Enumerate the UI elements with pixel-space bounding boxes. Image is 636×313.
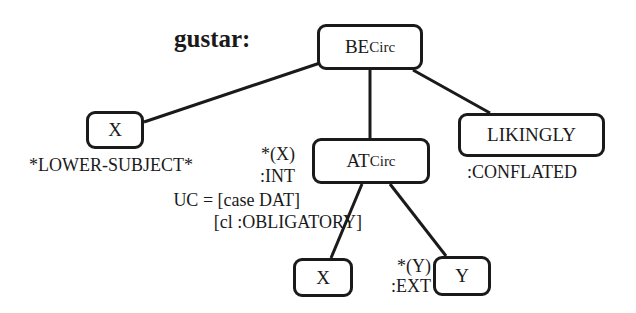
node-x-bottom: X [293, 258, 353, 297]
at-int-annotation: :INT [260, 166, 295, 187]
node-y-label: Y [455, 265, 469, 287]
node-x-top: X [86, 111, 144, 149]
uc-clitic-annotation: [cl :OBLIGATORY] [214, 212, 362, 233]
diagram-title: gustar: [174, 25, 250, 53]
edge-be-x [144, 63, 320, 122]
node-x-bottom-label: X [316, 267, 330, 289]
node-x-top-label: X [108, 119, 122, 141]
edge-be-likingly [413, 70, 490, 113]
node-y: Y [433, 256, 491, 296]
node-be-subscript: Circ [369, 39, 395, 56]
node-likingly-label: LIKINGLY [487, 124, 576, 146]
y-ext-annotation: :EXT [391, 276, 431, 297]
node-likingly: LIKINGLY [458, 113, 605, 157]
edge-at-y [390, 184, 446, 256]
conflated-annotation: :CONFLATED [467, 162, 577, 183]
y-mark-annotation: *(Y) [397, 256, 431, 277]
node-at-label: AT [346, 150, 369, 172]
node-be-circ: BECirc [317, 24, 423, 70]
node-at-circ: ATCirc [312, 138, 430, 184]
lower-subject-annotation: *LOWER-SUBJECT* [29, 155, 193, 176]
at-mark-annotation: *(X) [261, 144, 295, 165]
node-at-subscript: Circ [370, 153, 396, 170]
node-be-label: BE [345, 36, 369, 58]
uc-case-annotation: UC = [case DAT] [173, 190, 300, 211]
